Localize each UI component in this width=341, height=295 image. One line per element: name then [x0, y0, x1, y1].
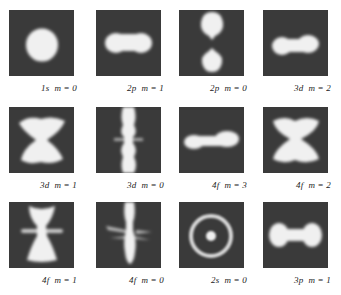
- orbital-image-2p-m1: [96, 10, 161, 76]
- orbital-label: 4fm = 0: [129, 275, 164, 285]
- orbital-label: 3dm = 1: [40, 180, 77, 190]
- orbital-image-4f-m3: [179, 107, 244, 173]
- orbital-image-2s-m0: [179, 202, 244, 268]
- orbital-label: 4fm = 2: [296, 180, 331, 190]
- orbital-label: 3dm = 0: [127, 180, 164, 190]
- orbital-label: 2pm = 0: [210, 83, 247, 93]
- orbital-image-3d-m2: [263, 10, 328, 76]
- orbital-label: 3pm = 1: [294, 275, 331, 285]
- orbital-image-4f-m2: [263, 107, 328, 173]
- orbital-label: 2sm = 0: [211, 275, 247, 285]
- orbital-image-3d-m0: [96, 107, 161, 173]
- orbital-label: 2pm = 1: [127, 83, 164, 93]
- orbital-image-4f-m1: [9, 202, 74, 268]
- orbital-label: 4fm = 1: [42, 275, 77, 285]
- orbital-image-3p-m1: [263, 202, 328, 268]
- orbital-image-3d-m1: [9, 107, 74, 173]
- orbital-image-1s-m0: [9, 10, 74, 76]
- orbital-label: 1sm = 0: [41, 83, 77, 93]
- orbital-image-2p-m0: [179, 10, 244, 76]
- orbital-image-4f-m0: [96, 202, 161, 268]
- orbital-label: 4fm = 3: [212, 180, 247, 190]
- orbital-label: 3dm = 2: [294, 83, 331, 93]
